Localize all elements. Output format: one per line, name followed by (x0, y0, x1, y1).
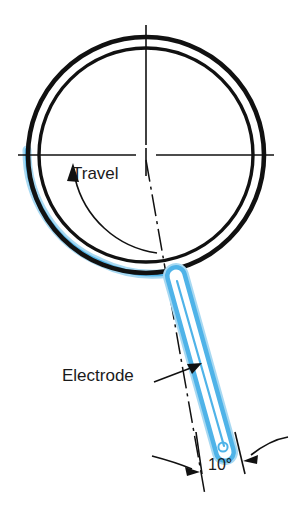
centerlines-group (18, 25, 274, 176)
diagram-canvas: Travel Electrode 10° (0, 0, 296, 511)
angle-arc-right (251, 437, 288, 455)
travel-arc (75, 178, 157, 253)
electrode-group (176, 276, 228, 452)
angle-arc-left (152, 456, 192, 469)
travel-label: Travel (72, 164, 119, 183)
angle-label: 10° (208, 456, 232, 473)
angle-arrowhead-left-icon (185, 467, 200, 476)
angle-arrowhead-right-icon (243, 455, 258, 464)
pipe-electrode-diagram: Travel Electrode 10° (0, 0, 296, 511)
electrode-label: Electrode (62, 366, 134, 385)
